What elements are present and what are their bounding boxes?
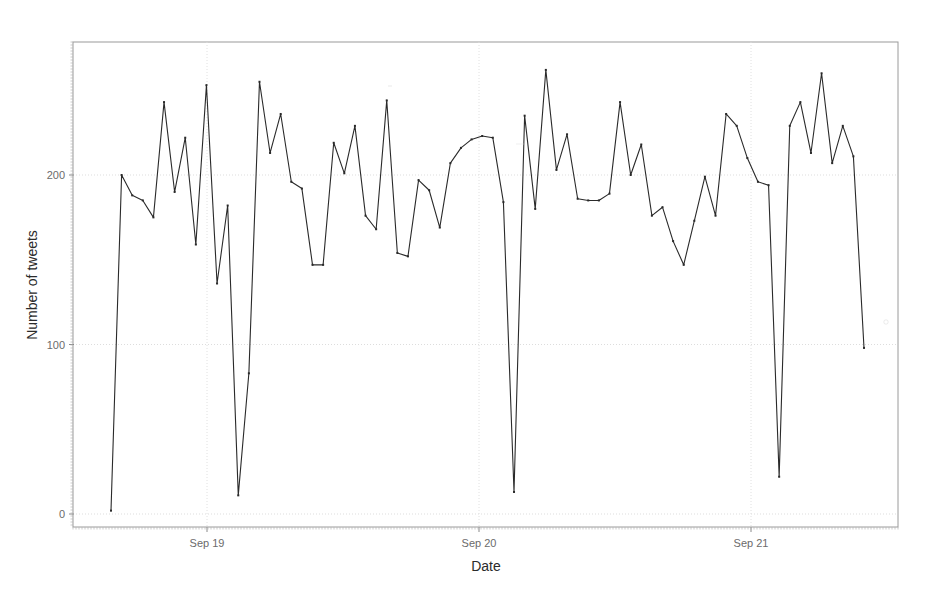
data-point (290, 181, 292, 183)
data-point (598, 199, 600, 201)
data-point (343, 172, 345, 174)
data-point (396, 252, 398, 254)
data-point (852, 155, 854, 157)
data-point (587, 199, 589, 201)
data-point (354, 125, 356, 127)
data-point (407, 255, 409, 257)
data-point (524, 115, 526, 117)
x-tick-label: Sep 21 (734, 537, 769, 549)
data-point (312, 264, 314, 266)
data-point (778, 476, 780, 478)
x-tick-label: Sep 20 (462, 537, 497, 549)
data-point (555, 169, 557, 171)
data-point (205, 84, 207, 86)
data-point (471, 138, 473, 140)
data-point (216, 282, 218, 284)
data-point (661, 206, 663, 208)
data-point (152, 216, 154, 218)
data-point (693, 220, 695, 222)
data-point (460, 147, 462, 149)
data-point (757, 181, 759, 183)
data-point (322, 264, 324, 266)
data-point (736, 125, 738, 127)
data-point (640, 143, 642, 145)
data-point (502, 201, 504, 203)
data-point (704, 176, 706, 178)
data-point (428, 189, 430, 191)
data-point (768, 184, 770, 186)
data-point (418, 179, 420, 181)
data-point (386, 99, 388, 101)
data-point (449, 162, 451, 164)
data-point (110, 510, 112, 512)
data-point (651, 215, 653, 217)
data-point (280, 113, 282, 115)
data-point (481, 135, 483, 137)
data-point (619, 101, 621, 103)
y-tick-label: 0 (59, 508, 65, 520)
data-point (365, 215, 367, 217)
data-point (577, 198, 579, 200)
data-point (237, 494, 239, 496)
data-point (672, 240, 674, 242)
y-axis-title: Number of tweets (24, 230, 40, 340)
data-point (439, 227, 441, 229)
data-point (513, 491, 515, 493)
data-point (301, 188, 303, 190)
data-point (131, 194, 133, 196)
data-point (821, 72, 823, 74)
y-tick-label: 100 (47, 339, 65, 351)
data-point (842, 125, 844, 127)
data-point (789, 125, 791, 127)
data-point (799, 101, 801, 103)
tweets-over-time-line-chart: 0100200 Sep 19Sep 20Sep 21 Number of twe… (0, 0, 947, 599)
data-point (630, 174, 632, 176)
data-point (831, 162, 833, 164)
data-point (174, 191, 176, 193)
data-point (195, 243, 197, 245)
data-point (121, 174, 123, 176)
data-point (142, 199, 144, 201)
data-point (746, 157, 748, 159)
data-point (375, 228, 377, 230)
data-point (248, 372, 250, 374)
data-point (333, 142, 335, 144)
data-point (566, 133, 568, 135)
data-point (534, 208, 536, 210)
chart-background (0, 0, 947, 599)
data-point (545, 69, 547, 71)
data-point (163, 101, 165, 103)
chart-canvas: 0100200 Sep 19Sep 20Sep 21 Number of twe… (0, 0, 947, 599)
data-point (608, 193, 610, 195)
data-point (492, 137, 494, 139)
data-point (227, 205, 229, 207)
data-point (184, 137, 186, 139)
x-tick-label: Sep 19 (190, 537, 225, 549)
data-point (258, 81, 260, 83)
data-point (810, 152, 812, 154)
x-axis-title: Date (471, 558, 501, 574)
data-point (863, 347, 865, 349)
y-tick-label: 200 (47, 169, 65, 181)
data-point (725, 113, 727, 115)
data-point (715, 215, 717, 217)
data-point (269, 152, 271, 154)
data-point (683, 264, 685, 266)
